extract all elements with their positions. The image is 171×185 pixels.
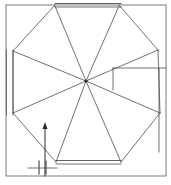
drawing-background [0,0,171,185]
umbrella-plan-drawing [0,0,171,185]
centre-hub-point [84,79,87,82]
